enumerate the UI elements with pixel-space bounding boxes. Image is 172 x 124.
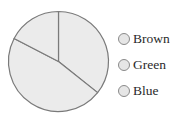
legend-swatch-circle-icon[interactable]	[118, 85, 130, 97]
legend-item-green[interactable]: Green	[118, 52, 170, 78]
legend-label: Blue	[133, 84, 159, 98]
legend-item-brown[interactable]: Brown	[118, 26, 170, 52]
legend-swatch-circle-icon[interactable]	[118, 33, 130, 45]
legend-label: Green	[133, 58, 166, 72]
legend-item-blue[interactable]: Blue	[118, 78, 170, 104]
legend-label: Brown	[133, 32, 170, 46]
legend-swatch-circle-icon[interactable]	[118, 59, 130, 71]
legend: Brown Green Blue	[118, 26, 170, 104]
pie-chart	[0, 0, 120, 124]
